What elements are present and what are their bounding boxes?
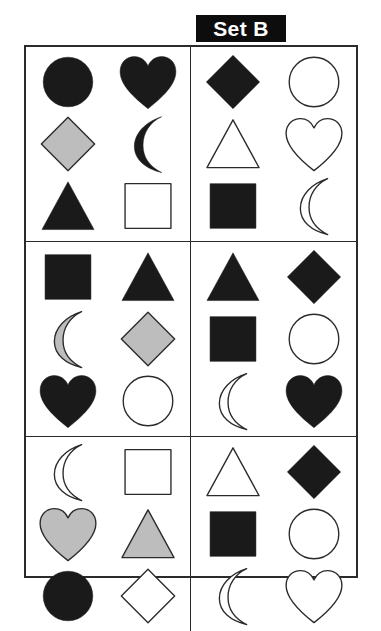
shape-cell-black-triangle[interactable] (193, 246, 274, 308)
shape-cell-white-square[interactable] (108, 441, 188, 503)
shape-cell-black-diamond[interactable] (274, 246, 355, 308)
circle-icon (283, 308, 345, 370)
shape-cell-white-crescent[interactable] (193, 370, 274, 432)
diamond-icon (37, 113, 99, 175)
set-title-badge: Set B (196, 15, 286, 42)
shape-cell-white-crescent[interactable] (274, 175, 355, 237)
shape-cell-black-circle[interactable] (28, 51, 108, 113)
crescent-icon (37, 441, 99, 503)
shape-cell-black-triangle[interactable] (28, 175, 108, 237)
shape-cell-gray-crescent[interactable] (28, 308, 108, 370)
heart-icon (117, 51, 179, 113)
shape-cell-black-heart[interactable] (28, 370, 108, 432)
crescent-icon (37, 308, 99, 370)
triangle-icon (202, 113, 264, 175)
shape-cell-white-circle[interactable] (274, 503, 355, 565)
shape-panel-top-right[interactable] (191, 47, 356, 242)
crescent-icon (202, 370, 264, 432)
shape-panel-top-left[interactable] (26, 47, 191, 242)
shape-cell-white-heart[interactable] (274, 565, 355, 627)
shape-cell-black-diamond[interactable] (274, 441, 355, 503)
shape-panel-middle-left[interactable] (26, 242, 191, 437)
diamond-icon (117, 308, 179, 370)
square-icon (202, 175, 264, 237)
shape-cell-gray-heart[interactable] (28, 503, 108, 565)
heart-icon (37, 370, 99, 432)
square-icon (117, 441, 179, 503)
circle-icon (283, 503, 345, 565)
triangle-icon (37, 175, 99, 237)
shape-cell-gray-diamond[interactable] (108, 308, 188, 370)
shape-cell-black-diamond[interactable] (193, 51, 274, 113)
shape-panel-grid (24, 45, 358, 578)
shape-cell-black-heart[interactable] (108, 51, 188, 113)
shape-cell-black-circle[interactable] (28, 565, 108, 627)
heart-icon (283, 565, 345, 627)
shape-cell-white-triangle[interactable] (193, 441, 274, 503)
shape-cell-black-square[interactable] (193, 308, 274, 370)
heart-icon (37, 503, 99, 565)
shape-cell-white-heart[interactable] (274, 113, 355, 175)
shape-cell-white-square[interactable] (108, 175, 188, 237)
shape-cell-white-circle[interactable] (274, 51, 355, 113)
square-icon (202, 503, 264, 565)
shape-cell-black-square[interactable] (193, 175, 274, 237)
heart-icon (283, 113, 345, 175)
shape-cell-black-square[interactable] (28, 246, 108, 308)
square-icon (117, 175, 179, 237)
diamond-icon (283, 441, 345, 503)
shape-cell-black-square[interactable] (193, 503, 274, 565)
triangle-icon (202, 246, 264, 308)
triangle-icon (202, 441, 264, 503)
shape-cell-white-triangle[interactable] (193, 113, 274, 175)
square-icon (37, 246, 99, 308)
shape-cell-white-crescent[interactable] (193, 565, 274, 627)
shape-cell-black-heart[interactable] (274, 370, 355, 432)
diamond-icon (283, 246, 345, 308)
shape-panel-bottom-left[interactable] (26, 437, 191, 631)
shape-cell-white-crescent[interactable] (28, 441, 108, 503)
shape-cell-black-crescent[interactable] (108, 113, 188, 175)
shape-cell-gray-diamond[interactable] (28, 113, 108, 175)
shape-cell-black-triangle[interactable] (108, 246, 188, 308)
heart-icon (283, 370, 345, 432)
triangle-icon (117, 246, 179, 308)
circle-icon (117, 370, 179, 432)
crescent-icon (283, 175, 345, 237)
diamond-icon (202, 51, 264, 113)
diamond-icon (117, 565, 179, 627)
shape-panel-bottom-right[interactable] (191, 437, 356, 631)
circle-icon (37, 51, 99, 113)
circle-icon (283, 51, 345, 113)
triangle-icon (117, 503, 179, 565)
shape-cell-white-circle[interactable] (108, 370, 188, 432)
crescent-icon (202, 565, 264, 627)
shape-cell-gray-triangle[interactable] (108, 503, 188, 565)
shape-cell-white-diamond[interactable] (108, 565, 188, 627)
circle-icon (37, 565, 99, 627)
shape-panel-middle-right[interactable] (191, 242, 356, 437)
square-icon (202, 308, 264, 370)
crescent-icon (117, 113, 179, 175)
shape-cell-white-circle[interactable] (274, 308, 355, 370)
